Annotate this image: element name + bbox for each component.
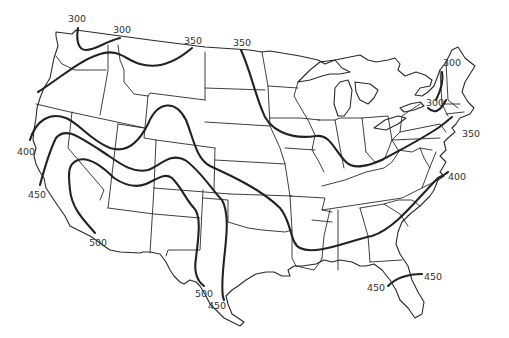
contour-label-450-florida-e: 450 (424, 272, 442, 282)
contour-label-400-east: 400 (448, 172, 466, 182)
contour-label-400-west: 400 (17, 147, 35, 157)
contour-label-350-ne: 350 (462, 129, 480, 139)
contour-label-300-ne-b: 300 (426, 98, 444, 108)
us-map (0, 0, 509, 338)
contour-label-450-texas: 450 (208, 301, 226, 311)
contour-label-300-west-b: 300 (113, 25, 131, 35)
contour-label-450-florida-w: 450 (367, 283, 385, 293)
contour-label-500-west: 500 (89, 238, 107, 248)
contour-400 (30, 105, 448, 250)
contour-label-300-west: 300 (68, 14, 86, 24)
contour-label-500-texas: 500 (195, 289, 213, 299)
contour-500 (69, 159, 204, 286)
country-outline (33, 30, 475, 326)
contour-label-350-north: 350 (233, 38, 251, 48)
contour-350-west (38, 48, 192, 92)
contour-label-450-west: 450 (28, 190, 46, 200)
contour-label-350-west: 350 (184, 36, 202, 46)
contour-label-300-ne: 300 (443, 58, 461, 68)
